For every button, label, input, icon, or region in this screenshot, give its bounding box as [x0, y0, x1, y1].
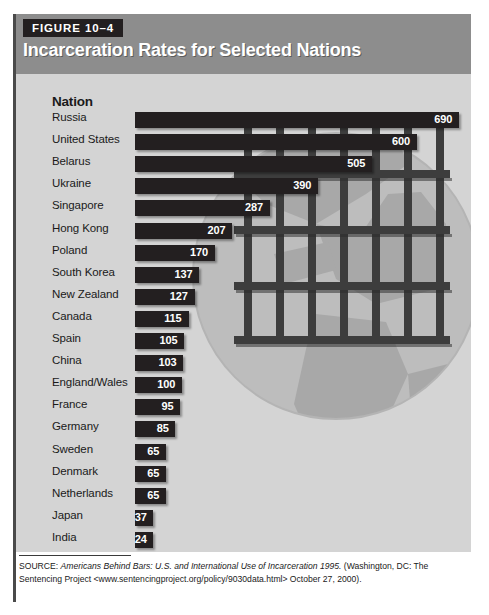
figure-title: Incarceration Rates for Selected Nations [23, 40, 361, 61]
bar-row-bar [135, 421, 175, 437]
bar-row-value: 115 [164, 312, 181, 324]
bar-row-value: 24 [135, 533, 147, 545]
bar-row-value: 505 [347, 157, 365, 169]
bar-row-value: 137 [175, 268, 193, 280]
figure-container: FIGURE 10–4 Incarceration Rates for Sele… [13, 14, 471, 602]
source-prefix: SOURCE: [19, 561, 61, 571]
bar-row-bar [135, 178, 318, 194]
bar-row-value: 390 [293, 179, 311, 191]
bar-row-label: Denmark [52, 465, 98, 477]
bar-row-bar [135, 156, 372, 172]
figure-footer: SOURCE: Americans Behind Bars: U.S. and … [16, 552, 471, 599]
chart-panel: Nation Russia690United States600Belarus5… [16, 74, 471, 552]
bar-row-value: 600 [392, 135, 410, 147]
bar-row-value: 65 [147, 467, 159, 479]
bar-row-label: Poland [52, 244, 87, 256]
bar-row-value: 103 [159, 356, 177, 368]
bar-row-bar [135, 112, 459, 128]
bar-row-label: Ukraine [52, 177, 91, 189]
footer-divider [19, 555, 131, 556]
bar-rows: Russia690United States600Belarus505Ukrai… [16, 74, 471, 552]
bar-row-value: 127 [170, 290, 188, 302]
bar-row-value: 95 [161, 400, 173, 412]
bar-row-value: 65 [147, 489, 159, 501]
source-note: SOURCE: Americans Behind Bars: U.S. and … [19, 560, 467, 586]
bar-row-label: Netherlands [52, 487, 113, 499]
figure-number-tag: FIGURE 10–4 [23, 19, 123, 37]
bar-row-value: 690 [434, 113, 452, 125]
bar-row-label: Hong Kong [52, 222, 109, 234]
bar-row-label: India [52, 531, 76, 543]
bar-row-label: Russia [52, 111, 87, 123]
bar-row-label: Canada [52, 310, 92, 322]
bar-row-value: 105 [160, 334, 178, 346]
bar-row-label: China [52, 354, 82, 366]
bar-row-label: Belarus [52, 155, 90, 167]
bar-row-label: Spain [52, 332, 81, 344]
bar-row-bar [135, 134, 417, 150]
bar-row-label: New Zealand [52, 288, 119, 300]
bar-row-value: 207 [207, 224, 225, 236]
bar-row-label: Japan [52, 509, 83, 521]
bar-row-value: 37 [135, 511, 147, 523]
bar-row-label: Sweden [52, 443, 93, 455]
bar-row-value: 170 [190, 246, 208, 258]
source-title: Americans Behind Bars: U.S. and Internat… [61, 561, 342, 571]
bar-row-value: 287 [245, 201, 263, 213]
bar-row-label: England/Wales [52, 376, 128, 388]
figure-header-band: FIGURE 10–4 Incarceration Rates for Sele… [16, 14, 471, 74]
bar-row-label: United States [52, 133, 120, 145]
bar-row-label: South Korea [52, 266, 115, 278]
bar-row-value: 100 [157, 378, 175, 390]
bar-row-value: 85 [157, 422, 169, 434]
bar-row-label: Germany [52, 420, 99, 432]
bar-row-label: Singapore [52, 199, 104, 211]
bar-row-value: 65 [147, 445, 159, 457]
bar-row-label: France [52, 398, 87, 410]
